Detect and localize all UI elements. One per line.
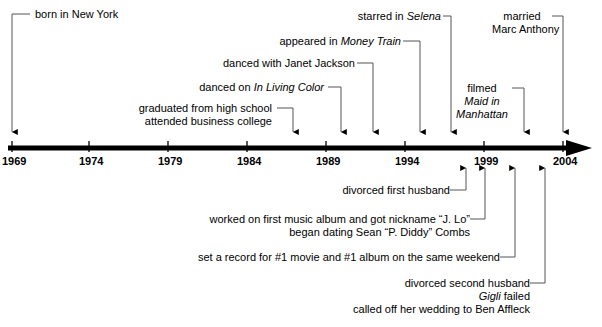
event-title-italic: Money Train (341, 35, 401, 47)
event-line: divorced first husband (150, 184, 450, 197)
event-label-janet-jackson: danced with Janet Jackson (105, 57, 355, 70)
event-label-money-train: appeared in Money Train (151, 35, 401, 48)
event-line: attended business college (72, 115, 272, 128)
event-title-italic: Selena (407, 10, 441, 22)
event-text: failed (504, 290, 530, 302)
event-label-born-in-new-york: born in New York (35, 8, 118, 21)
axis-arrowhead (566, 140, 592, 156)
event-text: danced on (199, 81, 250, 93)
connector-selena (443, 16, 451, 132)
event-label-maid-in-manhattan: filmed Maid in Manhattan (452, 82, 512, 121)
event-line: called off her wedding to Ben Affleck (100, 303, 530, 316)
year-label-1999: 1999 (474, 155, 498, 167)
event-line: starred in Selena (211, 10, 441, 23)
event-label-first-album-jlo: worked on first music album and got nick… (110, 213, 470, 239)
event-label-record-movie-album: set a record for #1 movie and #1 album o… (110, 251, 500, 264)
event-text: starred in (358, 10, 404, 22)
connector-born (12, 14, 30, 132)
year-label-1974: 1974 (79, 155, 103, 167)
year-label-1994: 1994 (395, 155, 419, 167)
connector-record (500, 168, 515, 257)
connector-in-living-color (328, 87, 341, 132)
year-label-1969: 1969 (2, 155, 26, 167)
event-label-divorced-second-husband: divorced second husband Gigli failed cal… (100, 277, 530, 316)
event-line: filmed (452, 82, 512, 95)
event-title-italic: Gigli (479, 290, 501, 302)
timeline-figure: born in New York graduated from high sch… (0, 0, 602, 327)
event-line: appeared in Money Train (151, 35, 401, 48)
connector-janet-jackson (357, 63, 373, 132)
event-label-divorced-first-husband: divorced first husband (150, 184, 450, 197)
event-line: set a record for #1 movie and #1 album o… (110, 251, 500, 264)
event-title-italic: In Living Color (254, 81, 324, 93)
event-line: Gigli failed (100, 290, 530, 303)
event-label-married-marc-anthony: married Marc Anthony (492, 10, 552, 36)
connector-maid-in-manhattan (512, 88, 524, 132)
event-line: graduated from high school (72, 102, 272, 115)
event-line: born in New York (35, 8, 118, 21)
timeline-axis (8, 140, 592, 156)
event-line: Marc Anthony (492, 23, 552, 36)
year-label-1989: 1989 (316, 155, 340, 167)
event-label-graduated: graduated from high school attended busi… (72, 102, 272, 128)
event-line: Maid in (452, 95, 512, 108)
connector-first-album (470, 168, 485, 219)
event-line: worked on first music album and got nick… (110, 213, 470, 226)
year-label-1979: 1979 (158, 155, 182, 167)
event-line: married (492, 10, 552, 23)
event-label-selena: starred in Selena (211, 10, 441, 23)
connector-divorced-second (530, 168, 545, 283)
event-label-in-living-color: danced on In Living Color (94, 81, 324, 94)
connector-money-train (403, 41, 420, 132)
event-line: danced on In Living Color (94, 81, 324, 94)
event-text: appeared in (280, 35, 338, 47)
event-line: began dating Sean “P. Diddy” Combs (110, 226, 470, 239)
year-label-2004: 2004 (553, 155, 577, 167)
connector-graduated (277, 108, 293, 132)
event-line: divorced second husband (100, 277, 530, 290)
event-line: Manhattan (452, 108, 512, 121)
year-label-1984: 1984 (237, 155, 261, 167)
event-line: danced with Janet Jackson (105, 57, 355, 70)
connector-divorced-first (450, 168, 466, 190)
